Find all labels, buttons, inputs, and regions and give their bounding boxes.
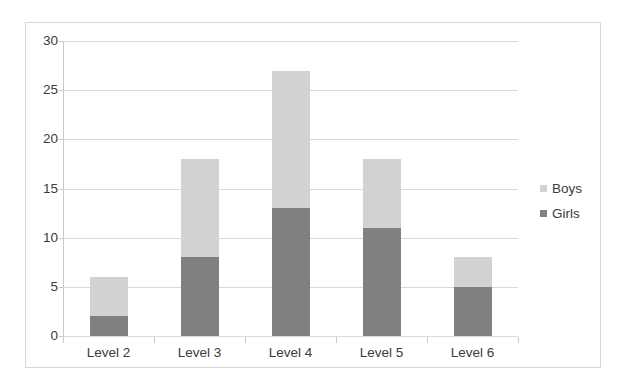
- bar-group[interactable]: [90, 41, 128, 336]
- bar-segment-boys[interactable]: [181, 159, 219, 257]
- legend-label: Boys: [552, 182, 582, 196]
- x-axis-label-level-3: Level 3: [154, 344, 245, 363]
- y-axis-tick-mark: [59, 238, 63, 239]
- gridline-0: [63, 336, 518, 337]
- bar-group[interactable]: [454, 41, 492, 336]
- y-axis-label: 15: [24, 182, 58, 196]
- y-axis-tick-mark: [59, 139, 63, 140]
- bar-segment-boys[interactable]: [363, 159, 401, 228]
- y-axis-tick-mark: [59, 189, 63, 190]
- x-axis-label-level-4: Level 4: [245, 344, 336, 363]
- y-axis-tick-mark: [59, 90, 63, 91]
- y-axis-tick-mark: [59, 287, 63, 288]
- y-axis-label: 10: [24, 231, 58, 245]
- bar-segment-boys[interactable]: [272, 71, 310, 209]
- x-axis-tick-mark: [336, 337, 337, 343]
- y-axis-label: 30: [24, 34, 58, 48]
- bar-segment-girls[interactable]: [181, 257, 219, 336]
- y-axis-label: 25: [24, 83, 58, 97]
- bar-group[interactable]: [363, 41, 401, 336]
- y-axis-label: 20: [24, 133, 58, 147]
- y-axis-tick-labels: 051015202530: [16, 0, 58, 390]
- bar-segment-boys[interactable]: [90, 277, 128, 316]
- x-axis-tick-mark: [518, 337, 519, 343]
- y-axis-tick-mark: [59, 336, 63, 337]
- bar-chart: 051015202530 Level 2Level 3Level 4Level …: [0, 0, 626, 390]
- legend-item-girls[interactable]: Girls: [540, 201, 600, 226]
- chart-legend: BoysGirls: [540, 176, 600, 226]
- bar-segment-girls[interactable]: [90, 316, 128, 336]
- bar-segment-girls[interactable]: [272, 208, 310, 336]
- legend-swatch-icon: [540, 210, 547, 217]
- bar-segment-boys[interactable]: [454, 257, 492, 287]
- x-axis-tick-mark: [63, 337, 64, 343]
- y-axis-label: 5: [24, 280, 58, 294]
- legend-item-boys[interactable]: Boys: [540, 176, 600, 201]
- y-axis-tick-mark: [59, 41, 63, 42]
- legend-swatch-icon: [540, 185, 547, 192]
- x-axis-tick-mark: [427, 337, 428, 343]
- bar-segment-girls[interactable]: [363, 228, 401, 336]
- bar-group[interactable]: [272, 41, 310, 336]
- legend-label: Girls: [552, 207, 580, 221]
- bar-segment-girls[interactable]: [454, 287, 492, 336]
- x-axis-tick-mark: [154, 337, 155, 343]
- bar-group[interactable]: [181, 41, 219, 336]
- x-axis-label-level-5: Level 5: [336, 344, 427, 363]
- plot-area: [63, 41, 518, 336]
- x-axis-label-level-6: Level 6: [427, 344, 518, 363]
- y-axis-label: 0: [24, 329, 58, 343]
- x-axis-tick-mark: [245, 337, 246, 343]
- x-axis-label-level-2: Level 2: [63, 344, 154, 363]
